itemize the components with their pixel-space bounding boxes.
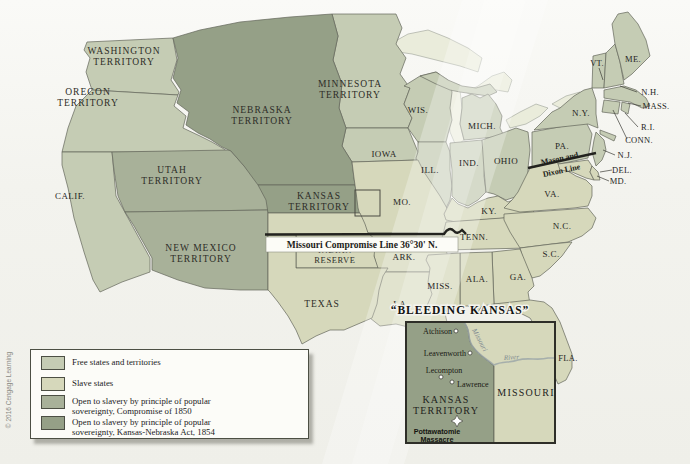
legend-text: Free states and territories xyxy=(72,357,161,367)
inset-label-kansas: KANSAS xyxy=(422,394,469,405)
legend-swatch-free xyxy=(41,356,65,370)
label-ala: ALA. xyxy=(466,274,488,284)
label-wis: WIS. xyxy=(408,105,428,115)
label-ri: R.I. xyxy=(641,122,655,132)
label-va: VA. xyxy=(544,189,559,199)
label-washington-territory-2: TERRITORY xyxy=(93,57,155,67)
label-md: MD. xyxy=(610,176,627,186)
label-calif: CALIF. xyxy=(55,191,85,201)
legend-swatch-kansas-nebraska-1854 xyxy=(41,416,65,430)
label-nc: N.C. xyxy=(553,221,572,231)
legend-label-kansas-nebraska-1854: Open to slavery by principle of popular … xyxy=(72,416,215,437)
map-regions xyxy=(62,12,650,384)
leader-ri xyxy=(625,113,638,127)
label-missouri-compromise: Missouri Compromise Line 36°30' N. xyxy=(287,240,438,250)
legend-label-slave: Slave states xyxy=(72,377,113,388)
legend-item-compromise-1850: Open to slavery by principle of popular … xyxy=(41,395,211,416)
label-mass: MASS. xyxy=(643,101,670,111)
legend-text: sovereignty, Compromise of 1850 xyxy=(72,406,211,416)
label-kansas-territory: KANSAS xyxy=(297,191,341,201)
legend-item-slave: Slave states xyxy=(41,377,113,391)
label-nebraska-territory: NEBRASKA xyxy=(232,105,291,115)
legend-text: sovereignty, Kansas-Nebraska Act, 1854 xyxy=(72,427,215,437)
label-del: DEL. xyxy=(612,165,632,175)
label-nh: N.H. xyxy=(641,87,659,97)
inset-label-kansas-2: TERRITORY xyxy=(413,405,479,416)
legend-text: Open to slavery by principle of popular xyxy=(72,417,215,427)
textbook-map-page: { "copyright": "© 2016 Cengage Learning"… xyxy=(0,0,690,464)
inset-label-massacre: Massacre xyxy=(421,435,454,444)
label-ill: ILL. xyxy=(421,165,439,175)
town-dot-leavenworth xyxy=(468,351,472,355)
label-ohio: OHIO xyxy=(494,156,518,166)
label-pa: PA. xyxy=(555,141,569,151)
label-texas: TEXAS xyxy=(304,299,340,309)
inset-title: “BLEEDING KANSAS” xyxy=(391,304,530,316)
town-label-lecompton: Lecompton xyxy=(426,366,462,375)
label-ga: GA. xyxy=(510,272,526,282)
legend-label-free: Free states and territories xyxy=(72,356,161,367)
leader-conn xyxy=(613,110,627,139)
label-ny: N.Y. xyxy=(572,108,590,118)
map-legend: Free states and territories Slave states… xyxy=(30,349,309,439)
label-miss: MISS. xyxy=(427,281,452,291)
legend-swatch-slave xyxy=(41,377,65,391)
label-ark: ARK. xyxy=(393,252,416,262)
region-minnesota-territory xyxy=(332,14,412,128)
town-dot-lawrence xyxy=(450,380,454,384)
label-fla: FLA. xyxy=(558,353,577,363)
label-mich: MICH. xyxy=(468,121,496,131)
region-connecticut xyxy=(602,100,620,114)
label-vt: VT. xyxy=(590,58,604,68)
label-nj: N.J. xyxy=(618,150,633,160)
label-oregon-territory: OREGON xyxy=(65,87,111,97)
inset-label-missouri: MISSOURI xyxy=(497,387,554,398)
label-utah-territory: UTAH xyxy=(157,165,187,175)
label-minnesota-territory: MINNESOTA xyxy=(318,79,382,89)
town-label-leavenworth: Leavenworth xyxy=(424,349,466,358)
label-kansas-territory-2: TERRITORY xyxy=(288,202,350,212)
label-conn: CONN. xyxy=(625,135,653,145)
label-new-mexico-territory-2: TERRITORY xyxy=(170,254,232,264)
town-label-atchison: Atchison xyxy=(423,327,452,336)
label-sc: S.C. xyxy=(542,249,559,259)
inset-river-label-river: River xyxy=(503,353,520,362)
copyright-notice: © 2016 Cengage Learning xyxy=(5,352,12,428)
label-iowa: IOWA xyxy=(371,149,396,159)
legend-text: Slave states xyxy=(72,378,113,388)
label-mo: MO. xyxy=(393,197,411,207)
town-dot-atchison xyxy=(454,329,458,333)
label-minnesota-territory-2: TERRITORY xyxy=(319,90,381,100)
region-north-carolina xyxy=(504,208,596,248)
legend-text: Open to slavery by principle of popular xyxy=(72,396,211,406)
legend-item-free: Free states and territories xyxy=(41,356,161,370)
leader-del xyxy=(600,170,612,172)
label-new-mexico-territory: NEW MEXICO xyxy=(165,243,236,253)
legend-label-compromise-1850: Open to slavery by principle of popular … xyxy=(72,395,211,416)
label-ky: KY. xyxy=(481,206,496,216)
region-new-jersey xyxy=(592,132,606,166)
label-indian-reserve-2: RESERVE xyxy=(314,255,355,265)
legend-swatch-compromise-1850 xyxy=(41,395,65,409)
label-nebraska-territory-2: TERRITORY xyxy=(231,116,293,126)
label-washington-territory: WASHINGTON xyxy=(87,46,160,56)
label-oregon-territory-2: TERRITORY xyxy=(57,98,119,108)
town-label-lawrence: Lawrence xyxy=(457,380,489,389)
label-me: ME. xyxy=(625,54,641,64)
bleeding-kansas-inset: “BLEEDING KANSAS” Atchison Leavenworth L… xyxy=(391,304,555,444)
legend-item-kansas-nebraska-1854: Open to slavery by principle of popular … xyxy=(41,416,215,437)
label-utah-territory-2: TERRITORY xyxy=(141,176,203,186)
label-ind: IND. xyxy=(459,158,479,168)
region-rhode-island xyxy=(621,102,630,114)
town-dot-lecompton xyxy=(439,375,443,379)
